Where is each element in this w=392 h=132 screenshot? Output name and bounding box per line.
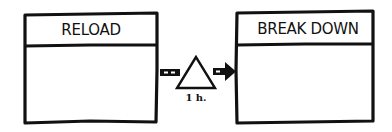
process-box-reload: RELOAD xyxy=(25,13,157,123)
process-box-break-down: BREAK DOWN xyxy=(236,11,373,123)
process-label-break-down: BREAK DOWN xyxy=(257,20,358,38)
inventory-triangle-icon xyxy=(177,57,215,88)
push-arrow-inventory-to-break-down xyxy=(213,62,236,81)
process-box-break-down-header-divider xyxy=(237,44,373,45)
push-arrow-shaft xyxy=(160,69,180,76)
inventory-wait-time: 1 h. xyxy=(185,92,206,103)
process-flow-diagram: RELOAD BREAK DOWN 1 h. xyxy=(0,0,392,132)
process-box-reload-header-divider xyxy=(25,45,157,46)
arrowhead-icon xyxy=(225,62,236,81)
process-label-reload: RELOAD xyxy=(61,21,120,39)
push-arrow-reload-to-inventory xyxy=(160,69,180,76)
